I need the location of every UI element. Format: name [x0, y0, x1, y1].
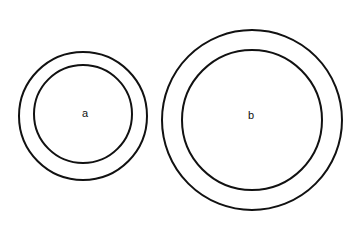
concentric-circles-diagram: a b: [0, 0, 363, 234]
label-b: b: [248, 109, 254, 121]
label-a: a: [82, 107, 89, 119]
